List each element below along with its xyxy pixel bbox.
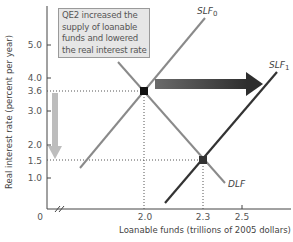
guide-lines <box>47 91 203 209</box>
rate-decrease-arrow-icon <box>48 93 62 159</box>
y-tick-1.0: 1.0 <box>28 173 43 183</box>
x-tick-labels: 0 2.0 2.3 2.5 <box>37 212 249 222</box>
equilibrium-point-initial <box>140 87 148 95</box>
x-tick-2.5: 2.5 <box>235 212 249 222</box>
y-tick-labels: 5.0 4.0 3.6 3.0 2.0 1.5 1.0 <box>28 40 43 183</box>
slf0-label: SLF0 <box>197 6 217 18</box>
annotation-line: supply of loanable <box>62 22 146 34</box>
y-tick-4.0: 4.0 <box>28 73 43 83</box>
y-ticks <box>47 45 51 178</box>
slf1-curve <box>165 72 277 203</box>
equilibrium-point-new <box>199 156 207 164</box>
x-axis-title: Loanable funds (trillions of 2005 dollar… <box>119 225 291 235</box>
y-tick-5.0: 5.0 <box>28 40 43 50</box>
y-axis-title: Real interest rate (percent per year) <box>4 35 14 189</box>
y-tick-2.0: 2.0 <box>28 140 43 150</box>
annotation-line: the real interest rate <box>62 45 146 57</box>
annotation-line: funds and lowered <box>62 33 146 45</box>
supply-shift-arrow-icon <box>155 72 263 96</box>
y-tick-1.5: 1.5 <box>28 156 42 166</box>
x-tick-2.0: 2.0 <box>138 212 153 222</box>
annotation-box: QE2 increased the supply of loanable fun… <box>58 8 150 58</box>
y-tick-3.0: 3.0 <box>28 106 43 116</box>
annotation-line: QE2 increased the <box>62 10 146 22</box>
y-tick-3.6: 3.6 <box>28 86 43 96</box>
x-tick-2.3: 2.3 <box>196 212 210 222</box>
dlf-label: DLF <box>228 179 246 189</box>
x-tick-0: 0 <box>37 212 43 222</box>
slf1-label: SLF1 <box>269 60 289 72</box>
